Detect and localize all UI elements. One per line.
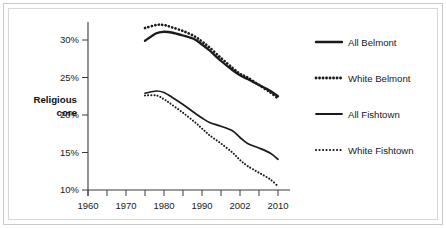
legend-label-white-belmont: White Belmont — [348, 73, 411, 84]
series-line-white-belmont — [145, 25, 278, 99]
legend-label-all-belmont: All Belmont — [348, 37, 397, 48]
legend-label-white-fishtown: White Fishtown — [348, 145, 414, 156]
series-line-white-fishtown — [145, 95, 278, 186]
line-chart-plot: 10%15%20%25%30% 196019701980199020022010… — [0, 0, 446, 228]
y-axis-title-line1: Religious — [33, 94, 77, 105]
x-axis-ticks — [88, 190, 278, 196]
x-tick-label-2002: 2002 — [229, 200, 250, 211]
series-line-all-belmont — [145, 32, 278, 97]
chart-figure: 10%15%20%25%30% 196019701980199020022010… — [0, 0, 446, 228]
x-tick-label-1990: 1990 — [191, 200, 212, 211]
x-tick-label-1980: 1980 — [153, 200, 174, 211]
x-tick-label-2010: 2010 — [267, 200, 288, 211]
y-tick-label-10: 10% — [60, 184, 80, 195]
series-line-all-fishtown — [145, 91, 278, 159]
x-tick-label-1970: 1970 — [115, 200, 136, 211]
chart-legend: All BelmontWhite BelmontAll FishtownWhit… — [316, 37, 414, 156]
y-axis-title-line2: core — [57, 107, 78, 118]
legend-label-all-fishtown: All Fishtown — [348, 109, 400, 120]
y-axis-ticks — [82, 40, 88, 190]
y-tick-label-15: 15% — [60, 147, 80, 158]
x-tick-label-1960: 1960 — [77, 200, 98, 211]
y-tick-label-25: 25% — [60, 72, 80, 83]
x-axis-tick-labels: 196019701980199020022010 — [77, 200, 288, 211]
y-tick-label-30: 30% — [60, 34, 80, 45]
chart-series-group — [145, 25, 278, 187]
